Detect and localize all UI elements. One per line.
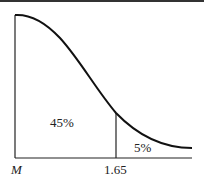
- left-region-label: 45%: [50, 115, 74, 131]
- density-curve: [15, 15, 192, 148]
- normal-curve-diagram: [0, 0, 204, 187]
- cutoff-label: 1.65: [104, 162, 127, 178]
- mean-label: M: [11, 162, 22, 178]
- right-region-label: 5%: [134, 140, 151, 156]
